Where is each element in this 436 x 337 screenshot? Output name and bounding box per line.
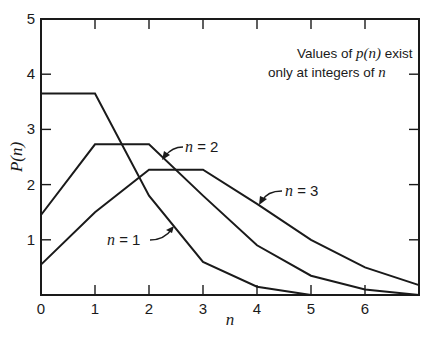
arrow-head-icon <box>259 196 267 205</box>
series-label-n1: n = 1 <box>107 231 140 248</box>
arrow-head-icon <box>166 226 174 233</box>
y-tick-label: 1 <box>27 231 35 248</box>
x-tick-label: 4 <box>253 300 261 317</box>
x-tick-label: 1 <box>91 300 99 317</box>
y-tick-label: 3 <box>27 120 35 137</box>
series-label-n2: n = 2 <box>185 138 218 155</box>
x-tick-label: 0 <box>37 300 45 317</box>
y-tick-label: 2 <box>27 176 35 193</box>
series-line-n1 <box>41 94 419 296</box>
annotation-line-1: Values of p(n) exist <box>297 45 413 62</box>
x-tick-label: 2 <box>145 300 153 317</box>
x-tick-label: 3 <box>199 300 207 317</box>
series-label-n3: n = 3 <box>285 182 318 199</box>
y-tick-label: 4 <box>27 65 35 82</box>
plot-curves <box>41 94 419 296</box>
x-tick-label: 6 <box>361 300 369 317</box>
chart: 012345612345 n P(n) Values of p(n) exist… <box>0 0 436 337</box>
series-line-n2 <box>41 144 419 295</box>
x-tick-label: 5 <box>307 300 315 317</box>
series-line-n3 <box>41 170 419 285</box>
x-axis-title: n <box>226 310 235 329</box>
y-axis-title: P(n) <box>7 142 26 174</box>
y-tick-label: 5 <box>27 10 35 27</box>
annotation-line-2: only at integers of n <box>268 64 386 80</box>
